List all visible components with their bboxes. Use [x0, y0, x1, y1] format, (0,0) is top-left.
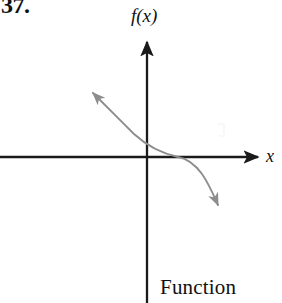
- function-curve: [93, 93, 218, 205]
- x-axis-label: x: [266, 147, 274, 165]
- function-graph-figure: 37. f(x) x Function: [0, 0, 282, 303]
- problem-number: 37.: [1, 0, 30, 17]
- graph-canvas: [0, 0, 282, 303]
- scan-artifact: [218, 124, 224, 136]
- figure-caption: Function: [160, 277, 236, 298]
- y-axis-label: f(x): [131, 6, 157, 25]
